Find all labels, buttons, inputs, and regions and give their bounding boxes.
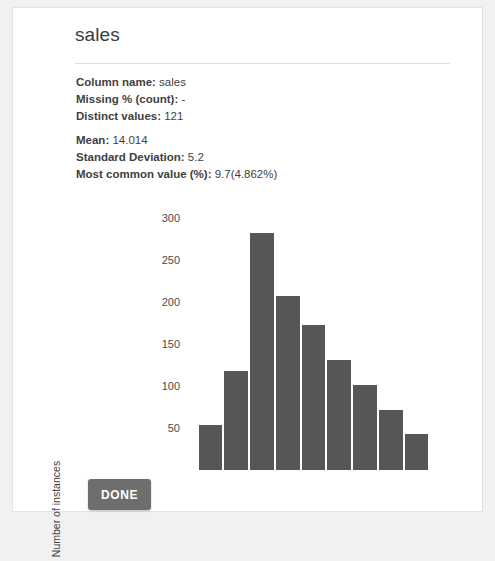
done-button[interactable]: DONE [88, 479, 151, 510]
stat-label: Standard Deviation: [76, 151, 185, 163]
histogram-bar [276, 296, 300, 470]
stat-most-common-value: Most common value (%): 9.7(4.862%) [76, 166, 406, 183]
column-summary-dialog: sales Column name: sales Missing % (coun… [12, 7, 483, 512]
stat-standard-deviation: Standard Deviation: 5.2 [76, 149, 406, 166]
stat-label: Most common value (%): [76, 168, 211, 180]
stat-missing-percent: Missing % (count): - [76, 91, 406, 108]
histogram-chart: Number of instances 50100150200250300 [13, 203, 482, 488]
y-tick-label: 300 [146, 212, 180, 224]
stat-value: 14.014 [112, 134, 147, 146]
stat-label: Missing % (count): [76, 93, 178, 105]
statistics-list: Column name: sales Missing % (count): - … [76, 74, 406, 183]
histogram-bar [199, 425, 223, 470]
stat-value: 9.7(4.862%) [215, 168, 278, 180]
stat-value: 5.2 [188, 151, 204, 163]
stat-value: - [181, 93, 185, 105]
y-tick-label: 200 [146, 296, 180, 308]
histogram-bar [379, 410, 403, 470]
stat-label: Mean: [76, 134, 109, 146]
stat-value: 121 [164, 110, 183, 122]
stat-group-separator [76, 125, 406, 132]
histogram-bar [250, 233, 274, 470]
histogram-bar [302, 325, 326, 470]
histogram-bar [353, 385, 377, 470]
histogram-bar [327, 360, 351, 470]
stat-distinct-values: Distinct values: 121 [76, 108, 406, 125]
y-tick-label: 100 [146, 380, 180, 392]
stat-mean: Mean: 14.014 [76, 132, 406, 149]
histogram-bar [405, 434, 429, 470]
y-axis-ticks: 50100150200250300 [146, 203, 180, 488]
y-tick-label: 150 [146, 338, 180, 350]
y-tick-label: 250 [146, 254, 180, 266]
y-axis-title: Number of instances [50, 444, 62, 561]
stat-label: Column name: [76, 76, 156, 88]
stat-value: sales [159, 76, 186, 88]
stat-label: Distinct values: [76, 110, 161, 122]
title-divider [75, 63, 450, 64]
y-tick-label: 50 [146, 422, 180, 434]
stat-column-name: Column name: sales [76, 74, 406, 91]
histogram-bar [224, 371, 248, 470]
dialog-title: sales [75, 24, 120, 46]
plot-area [198, 203, 430, 488]
